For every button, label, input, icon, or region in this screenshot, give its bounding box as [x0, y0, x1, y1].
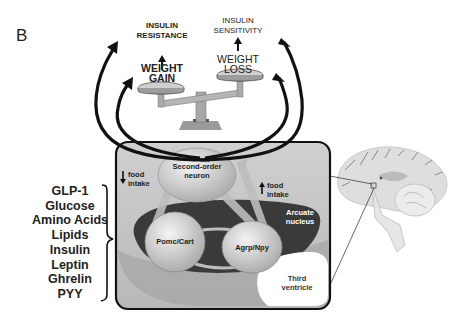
pomc-cart-label: Pomc/Cart — [145, 237, 205, 246]
signal-item: Glucose — [32, 199, 108, 214]
label-line: neuron — [166, 171, 228, 180]
signal-item: GLP-1 — [32, 184, 108, 199]
signal-item: Ghrelin — [32, 272, 108, 287]
label-line: food — [267, 181, 295, 190]
agrp-npy-label: Agrp/Npy — [222, 243, 282, 252]
weight-loss-label: WEIGHT LOSS — [210, 54, 266, 74]
label-line: ventricle — [272, 283, 322, 292]
label-line: LOSS — [210, 64, 266, 74]
label-line: INSULIN — [130, 21, 194, 31]
arcuate-nucleus-label: Arcuate nucleus — [278, 208, 322, 226]
signal-item: PYY — [32, 287, 108, 302]
signal-item: Leptin — [32, 258, 108, 273]
insulin-sensitivity-label: INSULIN SENSITIVITY — [208, 16, 268, 36]
callout-line-bottom — [330, 188, 374, 285]
label-line: intake — [267, 190, 295, 199]
label-line: RESISTANCE — [130, 31, 194, 41]
third-ventricle-label: Third ventricle — [272, 274, 322, 292]
arrow-head-icon — [272, 73, 285, 82]
label-line: nucleus — [278, 217, 322, 226]
label-line: Third — [272, 274, 322, 283]
second-order-neuron-label: Second-order neuron — [166, 162, 228, 180]
brain-illustration — [338, 147, 447, 252]
signal-list: GLP-1 Glucose Amino Acids Lipids Insulin… — [32, 184, 108, 302]
food-intake-increase-label: food intake — [267, 181, 295, 199]
label-line: Arcuate — [278, 208, 322, 217]
label-line: food — [128, 170, 156, 179]
label-line: intake — [128, 179, 156, 188]
panel-label: B — [16, 26, 27, 46]
label-line: INSULIN — [208, 16, 268, 26]
food-intake-decrease-label: food intake — [128, 170, 156, 188]
insulin-resistance-label: INSULIN RESISTANCE — [130, 21, 194, 41]
signal-item: Amino Acids — [32, 213, 108, 228]
label-line: Second-order — [166, 162, 228, 171]
weight-gain-label: WEIGHT GAIN — [134, 63, 190, 83]
arrow-up-icon — [234, 37, 242, 44]
signal-item: Lipids — [32, 228, 108, 243]
arrow-up-icon — [158, 55, 166, 62]
label-line: GAIN — [134, 73, 190, 83]
label-line: SENSITIVITY — [208, 26, 268, 36]
signal-item: Insulin — [32, 243, 108, 258]
